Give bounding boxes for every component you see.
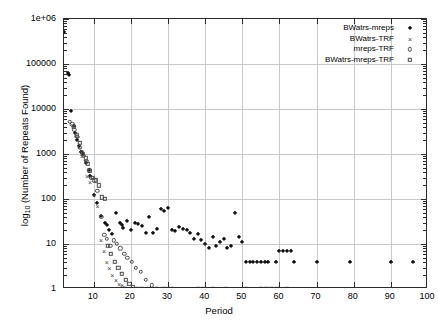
y-axis-minor-tick — [64, 156, 67, 157]
data-point-3 — [138, 270, 142, 274]
data-point-4 — [223, 287, 227, 288]
data-point-4 — [170, 287, 174, 288]
y-axis-tick-label: 100 — [4, 193, 56, 203]
x-axis-tick — [94, 19, 95, 24]
y-axis-minor-tick — [423, 164, 426, 165]
x-axis-title: Period — [0, 305, 438, 316]
y-axis-tick-label: 1 — [4, 283, 56, 293]
y-axis-minor-tick — [64, 111, 67, 112]
y-axis-minor-tick — [64, 50, 67, 51]
y-axis-title: log10 (Number of Repeats Found) — [19, 46, 30, 266]
x-axis-tick — [94, 282, 95, 287]
y-axis-minor-tick — [64, 254, 67, 255]
y-axis-minor-tick — [64, 161, 67, 162]
y-axis-tick — [421, 244, 426, 245]
data-point-1 — [207, 246, 212, 251]
y-axis-minor-tick — [423, 26, 426, 27]
x-axis-tick-label: 60 — [258, 291, 298, 301]
data-point-4 — [94, 178, 98, 182]
y-axis-tick — [421, 154, 426, 155]
y-axis-minor-tick — [64, 116, 67, 117]
legend-item-3: mreps-TRF — [325, 44, 418, 55]
data-point-3 — [105, 237, 109, 241]
plot-area: BWatrs-mrepsBWatrs-TRFmreps-TRFBWatrs-mr… — [63, 18, 427, 288]
y-axis-minor-tick — [64, 268, 67, 269]
y-gridline — [64, 199, 426, 200]
data-point-3 — [144, 278, 148, 282]
y-axis-minor-tick — [64, 258, 67, 259]
y-axis-minor-tick — [423, 246, 426, 247]
x-axis-tick — [391, 282, 392, 287]
y-axis-tick — [421, 199, 426, 200]
y-axis-minor-tick — [64, 140, 67, 141]
data-point-1 — [143, 230, 148, 235]
data-point-4 — [201, 287, 205, 288]
y-axis-minor-tick — [64, 248, 67, 249]
y-axis-minor-tick — [64, 78, 67, 79]
y-axis-minor-tick — [64, 185, 67, 186]
y-axis-minor-tick — [64, 68, 67, 69]
legend-item-1: BWatrs-mreps — [325, 23, 418, 34]
data-point-1 — [411, 260, 416, 265]
y-axis-minor-tick — [423, 43, 426, 44]
y-axis-minor-tick — [423, 161, 426, 162]
y-axis-minor-tick — [64, 158, 67, 159]
y-axis-minor-tick — [423, 23, 426, 24]
x-axis-tick-label: 50 — [221, 291, 261, 301]
y-axis-minor-tick — [423, 119, 426, 120]
legend-marker-cross-icon — [402, 34, 418, 44]
data-point-4 — [88, 169, 92, 173]
y-axis-minor-tick — [423, 50, 426, 51]
data-point-4 — [147, 287, 151, 288]
y-axis-minor-tick — [423, 206, 426, 207]
y-axis-tick-label: 1e+06 — [4, 13, 56, 23]
y-axis-minor-tick — [423, 123, 426, 124]
y-axis-minor-tick — [423, 78, 426, 79]
data-point-4 — [74, 133, 78, 137]
data-point-1 — [192, 237, 197, 242]
legend-marker-open-square-icon — [402, 55, 418, 65]
y-axis-minor-tick — [423, 185, 426, 186]
data-point-2 — [102, 248, 107, 253]
data-point-4 — [270, 287, 274, 288]
y-axis-minor-tick — [423, 209, 426, 210]
y-axis-minor-tick — [64, 164, 67, 165]
data-point-4 — [106, 244, 110, 248]
y-gridline — [64, 154, 426, 155]
data-point-4 — [264, 287, 268, 288]
y-axis-minor-tick — [423, 29, 426, 30]
data-point-4 — [116, 265, 120, 269]
x-axis-tick-label: 30 — [147, 291, 187, 301]
y-axis-tick — [421, 64, 426, 65]
y-axis-tick — [64, 199, 69, 200]
data-point-1 — [348, 260, 353, 265]
legend-label: BWatrs-mreps — [343, 23, 402, 34]
y-axis-minor-tick — [423, 223, 426, 224]
y-gridline — [64, 109, 426, 110]
y-axis-tick-label: 10 — [4, 238, 56, 248]
y-axis-minor-tick — [64, 178, 67, 179]
y-axis-tick — [421, 19, 426, 20]
y-axis-minor-tick — [423, 158, 426, 159]
data-point-1 — [221, 237, 226, 242]
y-axis-minor-tick — [64, 209, 67, 210]
data-point-2 — [95, 203, 100, 208]
legend-marker-filled-diamond-icon — [402, 23, 418, 33]
data-point-4 — [86, 162, 90, 166]
y-axis-minor-tick — [64, 26, 67, 27]
y-axis-minor-tick — [423, 127, 426, 128]
y-axis-minor-tick — [64, 246, 67, 247]
data-point-2 — [107, 265, 112, 270]
y-axis-minor-tick — [64, 113, 67, 114]
x-gridline — [168, 19, 169, 287]
x-axis-tick-label: 10 — [73, 291, 113, 301]
y-axis-minor-tick — [64, 262, 67, 263]
data-point-1 — [236, 235, 241, 240]
y-axis-minor-tick — [64, 95, 67, 96]
data-point-4 — [275, 287, 279, 288]
data-point-3 — [129, 260, 133, 264]
data-point-1 — [121, 225, 126, 230]
data-point-1 — [292, 260, 297, 265]
y-axis-minor-tick — [423, 21, 426, 22]
data-point-4 — [77, 140, 81, 144]
